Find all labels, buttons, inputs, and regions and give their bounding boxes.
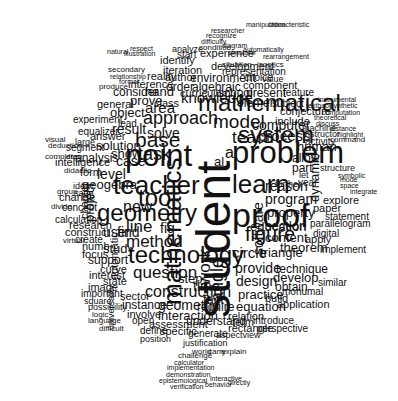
cloud-word: automatic xyxy=(109,232,120,280)
cloud-word: challenge xyxy=(178,352,212,360)
cloud-word: command xyxy=(330,136,365,144)
cloud-word: new xyxy=(123,199,152,215)
cloud-word: illustration xyxy=(124,50,156,57)
cloud-word: space xyxy=(340,182,359,189)
cloud-word: isoptics xyxy=(257,61,284,69)
cloud-word: position xyxy=(140,335,171,344)
cloud-word: calculator xyxy=(174,359,204,366)
cloud-word: textbook xyxy=(306,102,332,109)
cloud-word: virtual xyxy=(63,237,84,245)
cloud-word: obtain xyxy=(275,281,308,293)
cloud-word: explain xyxy=(221,348,246,356)
cloud-word: perspective xyxy=(257,324,308,334)
cloud-word: technique xyxy=(276,263,328,275)
cloud-word: automatically xyxy=(243,46,284,53)
cloud-word: divide xyxy=(51,203,72,211)
cloud-word: similar xyxy=(318,278,347,288)
cloud-word: characteristic xyxy=(268,21,309,28)
cloud-word: find xyxy=(117,225,140,239)
cloud-word: application xyxy=(277,299,330,310)
cloud-word: feature xyxy=(283,88,314,98)
cloud-word: experiment xyxy=(73,115,122,125)
cloud-word: class xyxy=(154,98,179,109)
cloud-word: al xyxy=(214,155,224,168)
cloud-word: produce xyxy=(99,83,128,91)
cloud-word: property xyxy=(267,206,315,219)
cloud-word: deduction xyxy=(48,142,83,150)
cloud-word: difficult xyxy=(99,325,124,333)
cloud-word: verification xyxy=(170,383,203,390)
cloud-word: answer xyxy=(90,131,125,142)
cloud-word: ai xyxy=(225,145,237,161)
cloud-word: secondary xyxy=(108,66,145,74)
cloud-word: implement xyxy=(320,245,366,255)
cloud-word: mode xyxy=(340,176,358,183)
cloud-word: didactic xyxy=(64,167,91,175)
cloud-word: value xyxy=(262,75,284,84)
cloud-word: software xyxy=(251,202,265,255)
cloud-word: general xyxy=(97,99,134,110)
cloud-word: synthetic xyxy=(330,102,358,109)
cloud-word: angle xyxy=(208,258,226,302)
cloud-word: integrate xyxy=(350,188,377,195)
cloud-word: fig xyxy=(160,221,175,235)
cloud-word: situation xyxy=(222,61,252,69)
cloud-word: design xyxy=(236,274,277,288)
cloud-word: drag xyxy=(66,153,82,161)
word-cloud: studentmathematicsproofproblemlearnpoint… xyxy=(0,0,398,401)
cloud-word: aspectview xyxy=(216,331,261,340)
cloud-word: open xyxy=(132,316,154,326)
cloud-word: group xyxy=(57,188,77,196)
cloud-word: solve xyxy=(147,126,180,140)
cloud-word: further xyxy=(275,180,301,189)
cloud-word: focus xyxy=(82,249,108,260)
cloud-word: directly xyxy=(228,379,250,386)
